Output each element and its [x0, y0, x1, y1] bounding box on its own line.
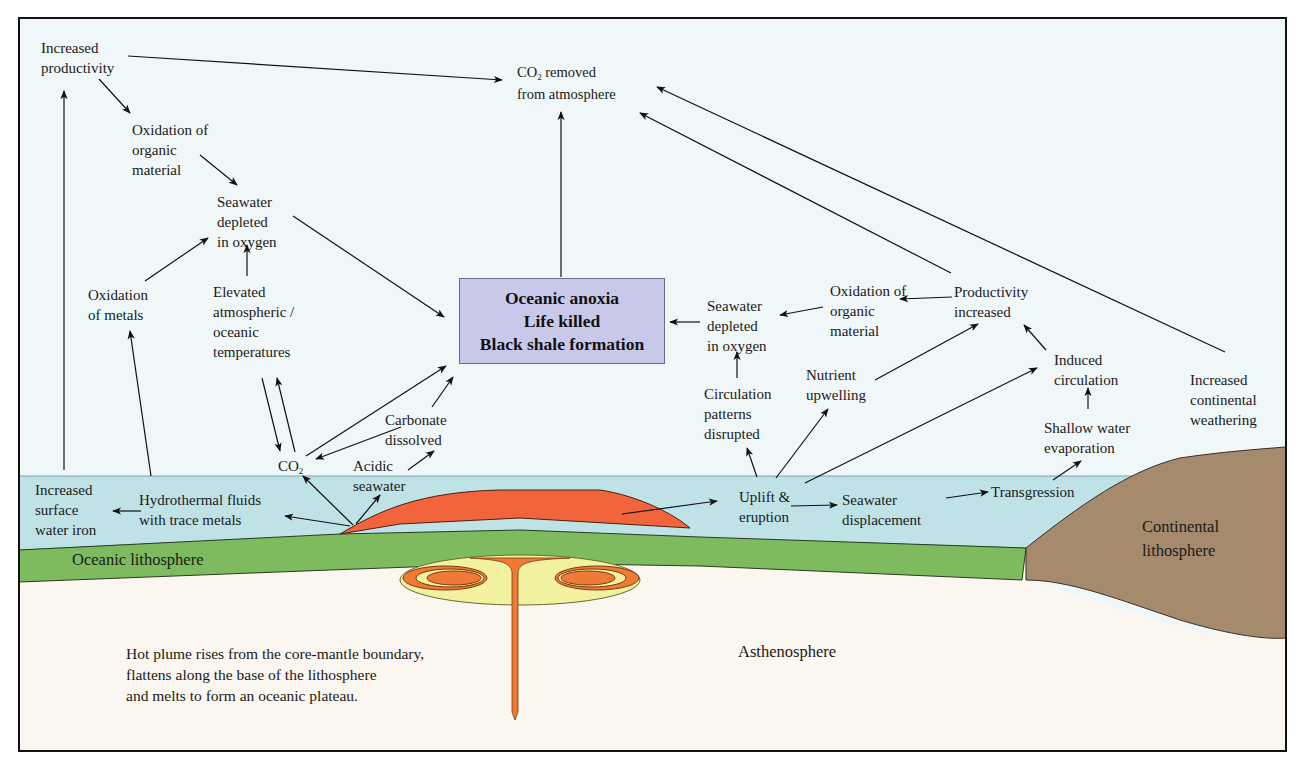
co2-subscript: 2 — [299, 466, 304, 476]
line: eruption — [739, 509, 789, 525]
label-oceanic-lithosphere: Oceanic lithosphere — [72, 550, 203, 569]
line: water iron — [35, 522, 96, 538]
label-oxidation-organic-right: Oxidation oforganicmaterial — [830, 281, 906, 341]
co2-removed-text: removed — [542, 64, 596, 80]
line: weathering — [1190, 412, 1257, 428]
caption-line: Hot plume rises from the core-mantle bou… — [126, 645, 424, 662]
line: organic — [830, 303, 875, 319]
line: organic — [132, 142, 177, 158]
line: Acidic — [353, 458, 393, 474]
line: increased — [954, 304, 1011, 320]
line: Seawater — [217, 194, 272, 210]
line: Productivity — [954, 284, 1028, 300]
box-line-anoxia: Oceanic anoxia — [505, 287, 619, 310]
line: displacement — [842, 512, 921, 528]
line: Oxidation — [88, 287, 148, 303]
box-line-life-killed: Life killed — [524, 310, 600, 333]
plume-caption: Hot plume rises from the core-mantle bou… — [126, 643, 424, 706]
label-nutrient-upwelling: Nutrientupwelling — [806, 365, 866, 405]
from-atmosphere-text: from atmosphere — [517, 86, 616, 102]
line: Circulation — [704, 386, 772, 402]
label-acidic-seawater: Acidicseawater — [353, 456, 405, 496]
line: surface — [35, 502, 78, 518]
label-productivity-increased: Productivityincreased — [954, 282, 1028, 322]
label-uplift-eruption: Uplift &eruption — [739, 487, 790, 527]
line: Seawater — [842, 492, 897, 508]
line: of metals — [88, 307, 143, 323]
line: Carbonate — [385, 412, 447, 428]
oceanic-anoxia-box: Oceanic anoxia Life killed Black shale f… — [459, 278, 665, 364]
label-continental-weathering: Increasedcontinentalweathering — [1190, 370, 1257, 430]
box-line-black-shale: Black shale formation — [480, 333, 644, 356]
line: upwelling — [806, 387, 866, 403]
label-elevated-temperatures: Elevatedatmospheric /oceanictemperatures — [213, 282, 294, 362]
line: Oxidation of — [132, 122, 208, 138]
line: Nutrient — [806, 367, 856, 383]
line: atmospheric / — [213, 304, 294, 320]
label-shallow-water-evaporation: Shallow waterevaporation — [1044, 418, 1130, 458]
line: oceanic — [213, 324, 259, 340]
line: disrupted — [704, 426, 760, 442]
label-asthenosphere: Asthenosphere — [738, 642, 836, 661]
line: depleted — [217, 214, 268, 230]
label-continental-lithosphere: Continentallithosphere — [1142, 515, 1219, 563]
line: in oxygen — [217, 234, 277, 250]
line: Transgression — [991, 484, 1075, 500]
co2-prefix: CO — [278, 458, 299, 474]
line: Induced — [1054, 352, 1102, 368]
label-carbonate-dissolved: Carbonatedissolved — [385, 410, 447, 450]
label-increased-productivity: Increasedproductivity — [41, 38, 114, 78]
caption-line: and melts to form an oceanic plateau. — [126, 687, 358, 704]
line: dissolved — [385, 432, 442, 448]
line: Increased — [1190, 372, 1247, 388]
line: Uplift & — [739, 489, 790, 505]
label-circulation-disrupted: Circulationpatternsdisrupted — [704, 384, 772, 444]
line: patterns — [704, 406, 751, 422]
line: material — [132, 162, 181, 178]
line: seawater — [353, 478, 405, 494]
caption-line: flattens along the base of the lithosphe… — [126, 666, 377, 683]
label-seawater-depleted-left: Seawaterdepletedin oxygen — [217, 192, 277, 252]
label-co2-removed: CO2 removedfrom atmosphere — [517, 64, 616, 103]
label-seawater-depleted-right: Seawaterdepletedin oxygen — [707, 296, 767, 356]
line: lithosphere — [1142, 541, 1215, 560]
line: in oxygen — [707, 338, 767, 354]
label-hydrothermal-fluids: Hydrothermal fluidswith trace metals — [139, 490, 261, 530]
line: Increased — [41, 40, 98, 56]
label-oxidation-organic-left: Oxidation oforganicmaterial — [132, 120, 208, 180]
line: Hydrothermal fluids — [139, 492, 261, 508]
plume-swirl-right — [555, 566, 639, 590]
label-induced-circulation: Inducedcirculation — [1054, 350, 1118, 390]
label-oxidation-metals: Oxidationof metals — [88, 285, 148, 325]
label-seawater-displacement: Seawaterdisplacement — [842, 490, 921, 530]
line: Increased — [35, 482, 92, 498]
line: circulation — [1054, 372, 1118, 388]
line: temperatures — [213, 344, 290, 360]
line: material — [830, 323, 879, 339]
plume-swirl-left — [403, 566, 487, 590]
line: depleted — [707, 318, 758, 334]
label-surface-water-iron: Increasedsurfacewater iron — [35, 480, 96, 540]
line: Oxidation of — [830, 283, 906, 299]
line: with trace metals — [139, 512, 241, 528]
line: Seawater — [707, 298, 762, 314]
co2-prefix: CO — [517, 64, 537, 80]
line: Elevated — [213, 284, 265, 300]
plume-anoxia-diagram: Oceanic anoxia Life killed Black shale f… — [0, 0, 1300, 763]
label-co2: CO2 — [278, 456, 303, 481]
line: Shallow water — [1044, 420, 1130, 436]
line: evaporation — [1044, 440, 1115, 456]
line: Continental — [1142, 517, 1219, 536]
line: continental — [1190, 392, 1257, 408]
label-transgression: Transgression — [991, 482, 1075, 502]
line: productivity — [41, 60, 114, 76]
